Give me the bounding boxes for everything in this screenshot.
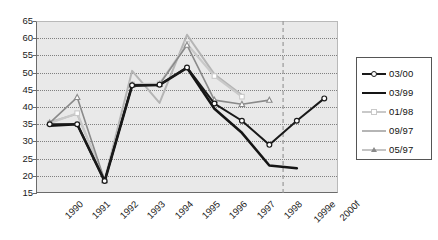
- data-point-marker: [240, 94, 245, 99]
- legend-item-03-99[interactable]: 03/99: [357, 83, 431, 102]
- legend-swatch: [362, 125, 386, 137]
- x-axis-tick-label: 1999e: [312, 199, 338, 225]
- x-axis-tick-label: 1990: [63, 199, 85, 221]
- legend-label: 03/00: [389, 68, 413, 79]
- legend-swatch: [362, 87, 386, 99]
- series-03-00: [47, 65, 326, 183]
- data-point-marker: [47, 122, 52, 127]
- x-axis-tick-label: 1998: [283, 199, 305, 221]
- data-point-marker: [75, 111, 80, 116]
- x-axis-tick-label: 1995: [200, 199, 222, 221]
- y-axis-tick-label: 15: [3, 188, 33, 198]
- legend-label: 05/97: [389, 144, 413, 155]
- legend-swatch: [362, 106, 386, 118]
- data-point-marker: [75, 122, 80, 127]
- y-axis-tick-label: 60: [3, 33, 33, 43]
- y-axis-tick-label: 35: [3, 119, 33, 129]
- x-axis-tick-label: 2000f: [338, 199, 362, 223]
- y-axis-tick-label: 45: [3, 85, 33, 95]
- legend-swatch: [362, 144, 386, 156]
- data-point-marker: [212, 101, 217, 106]
- legend-marker-diamond-icon: [371, 109, 377, 115]
- data-point-marker: [74, 94, 79, 99]
- x-axis-tick-label: 1991: [90, 199, 112, 221]
- data-point-marker: [240, 118, 245, 123]
- data-point-marker: [102, 179, 107, 184]
- data-point-marker: [130, 83, 135, 88]
- y-axis-tick-label: 40: [3, 102, 33, 112]
- series-01-98: [47, 42, 244, 183]
- legend-item-03-00[interactable]: 03/00: [357, 64, 431, 83]
- series-line: [50, 45, 270, 181]
- legend-label: 01/98: [389, 106, 413, 117]
- y-axis-tick-label: 65: [3, 16, 33, 26]
- chart-root: 1520253035404550556065 19901991199219931…: [0, 0, 438, 240]
- legend-marker-circle-icon: [371, 71, 377, 77]
- data-point-marker: [239, 101, 244, 106]
- y-axis-tick-label: 50: [3, 68, 33, 78]
- y-axis-tick-label: 25: [3, 154, 33, 164]
- series-05-97: [47, 42, 272, 183]
- data-point-marker: [157, 82, 162, 87]
- data-point-marker: [185, 65, 190, 70]
- y-axis: 1520253035404550556065: [0, 21, 33, 193]
- data-point-marker: [294, 118, 299, 123]
- data-point-marker: [267, 142, 272, 147]
- legend-label: 03/99: [389, 87, 413, 98]
- data-point-marker: [267, 97, 272, 102]
- x-axis-tick-label: 1994: [173, 199, 195, 221]
- legend-marker-triangle-icon: [371, 147, 377, 152]
- legend-swatch: [362, 68, 386, 80]
- legend-item-01-98[interactable]: 01/98: [357, 102, 431, 121]
- x-axis-tick-label: 1992: [118, 199, 140, 221]
- line-chart: 1520253035404550556065 19901991199219931…: [0, 0, 348, 240]
- y-axis-tick-label: 55: [3, 50, 33, 60]
- chart-legend: 03/0003/9901/9809/9705/97: [356, 57, 432, 160]
- y-axis-tick-mark: [33, 193, 37, 194]
- y-axis-tick-label: 30: [3, 136, 33, 146]
- x-axis-tick-label: 1997: [255, 199, 277, 221]
- legend-item-05-97[interactable]: 05/97: [357, 140, 431, 159]
- x-axis-tick-label: 1993: [145, 199, 167, 221]
- legend-label: 09/97: [389, 125, 413, 136]
- legend-item-09-97[interactable]: 09/97: [357, 121, 431, 140]
- y-axis-tick-label: 20: [3, 171, 33, 181]
- x-axis: 1990199119921993199419951996199719981999…: [36, 195, 338, 240]
- series-layer: [36, 21, 338, 193]
- x-axis-tick-label: 1996: [228, 199, 250, 221]
- data-point-marker: [212, 74, 217, 79]
- data-point-marker: [322, 96, 327, 101]
